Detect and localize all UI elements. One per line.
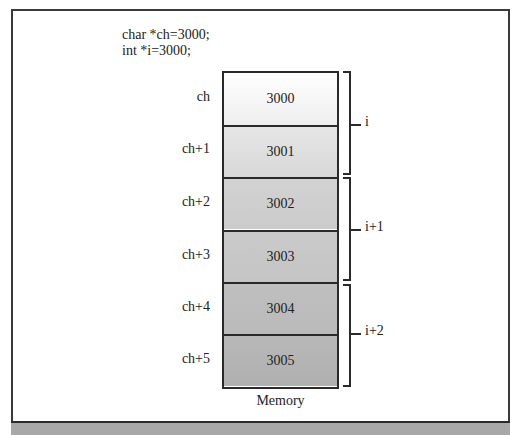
bracket-tick-i2 <box>351 333 361 335</box>
pointer-label-ch2: ch+2 <box>160 194 210 210</box>
memory-cell-3002: 3002 <box>224 177 337 229</box>
pointer-label-ch3: ch+3 <box>160 247 210 263</box>
code-line-char-pointer: char *ch=3000; <box>122 27 210 43</box>
cell-address: 3005 <box>267 353 295 369</box>
bracket-i <box>343 71 351 175</box>
pointer-label-ch: ch <box>160 89 210 105</box>
memory-cell-3000: 3000 <box>224 73 337 125</box>
pointer-label-ch5: ch+5 <box>160 351 210 367</box>
memory-cell-3001: 3001 <box>224 125 337 177</box>
footer-bar <box>11 421 510 435</box>
bracket-tick-i1 <box>351 229 361 231</box>
pointer-label-ch4: ch+4 <box>160 299 210 315</box>
memory-caption: Memory <box>222 393 339 409</box>
cell-address: 3004 <box>267 301 295 317</box>
bracket-i2 <box>343 284 351 387</box>
memory-cell-3005: 3005 <box>224 334 337 386</box>
int-pointer-label-i1: i+1 <box>365 219 384 235</box>
bracket-tick-i <box>351 124 361 126</box>
code-line-int-pointer: int *i=3000; <box>122 43 210 59</box>
int-pointer-label-i2: i+2 <box>365 323 384 339</box>
cell-address: 3000 <box>267 91 295 107</box>
int-pointer-label-i: i <box>365 114 369 130</box>
memory-cell-3004: 3004 <box>224 282 337 334</box>
pointer-label-ch1: ch+1 <box>160 141 210 157</box>
code-snippet: char *ch=3000;int *i=3000; <box>122 27 210 59</box>
memory-block: 3000 3001 3002 3003 3004 3005 <box>222 71 339 389</box>
cell-address: 3001 <box>267 144 295 160</box>
bracket-i1 <box>343 177 351 281</box>
cell-address: 3003 <box>267 249 295 265</box>
cell-address: 3002 <box>267 196 295 212</box>
memory-cell-3003: 3003 <box>224 230 337 282</box>
